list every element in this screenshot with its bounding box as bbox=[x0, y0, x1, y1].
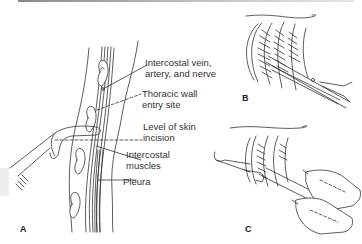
label-intercostal-vessels: Intercostal vein, artery, and nerve bbox=[145, 57, 216, 79]
panel-label-a: A bbox=[20, 224, 27, 234]
panel-b-drawing bbox=[246, 15, 352, 108]
label-pleura: Pleura bbox=[123, 176, 150, 187]
panel-label-b: B bbox=[242, 93, 249, 103]
panel-a-drawing bbox=[10, 41, 147, 232]
label-skin-incision: Level of skin incision bbox=[143, 121, 196, 143]
panel-label-c: C bbox=[245, 224, 252, 234]
panel-c-drawing bbox=[214, 126, 360, 234]
label-thoracic-wall-entry: Thoracic wall entry site bbox=[142, 88, 197, 110]
label-intercostal-muscles: Intercostal muscles bbox=[126, 149, 170, 171]
